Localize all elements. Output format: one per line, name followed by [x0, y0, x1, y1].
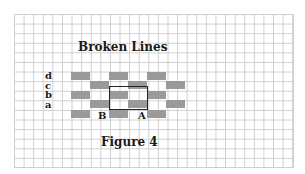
brick [90, 100, 109, 108]
brick [147, 91, 166, 99]
brick [109, 110, 128, 118]
figure: Broken Lines d c b a B A Figure 4 [0, 0, 305, 174]
row-label-d: d [45, 71, 52, 80]
point-label-a: A [138, 111, 146, 121]
brick [147, 72, 166, 80]
row-label-b: b [45, 90, 52, 99]
brick [147, 110, 166, 118]
figure-title: Broken Lines [78, 40, 167, 54]
highlight-rectangle [109, 86, 148, 110]
brick [71, 110, 90, 118]
figure-caption: Figure 4 [101, 135, 158, 149]
row-label-a: a [45, 100, 51, 109]
brick [90, 81, 109, 89]
brick [71, 91, 90, 99]
brick [71, 72, 90, 80]
brick [166, 81, 185, 89]
brick [166, 100, 185, 108]
brick [109, 72, 128, 80]
point-label-b: B [98, 111, 106, 121]
